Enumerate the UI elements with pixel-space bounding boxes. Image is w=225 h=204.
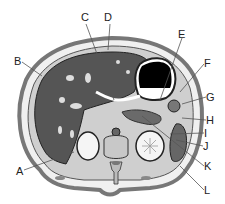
- vertebra: [104, 136, 128, 159]
- label-a: A: [16, 166, 23, 177]
- label-b: B: [14, 56, 21, 67]
- renal-pelvis: [142, 138, 158, 154]
- liver-vessel: [116, 60, 120, 64]
- liver-vessel: [126, 70, 130, 74]
- liver-vessel: [70, 103, 82, 109]
- liver-vessel: [59, 97, 65, 103]
- right-kidney: [77, 132, 99, 160]
- label-l: L: [204, 185, 210, 196]
- rib: [141, 176, 151, 180]
- stomach-air: [139, 62, 172, 88]
- label-d: D: [104, 12, 112, 23]
- liver-vessel: [85, 73, 91, 83]
- label-h: H: [206, 115, 214, 126]
- abdomen-cross-section: [0, 0, 225, 204]
- label-j: J: [203, 141, 209, 152]
- label-e: E: [178, 29, 185, 40]
- liver-vessel: [58, 126, 62, 134]
- label-c: C: [81, 12, 89, 23]
- spinal-canal: [112, 161, 120, 165]
- liver-vessel: [70, 130, 74, 138]
- aorta: [112, 128, 120, 136]
- colon: [168, 100, 180, 112]
- rib: [55, 176, 65, 180]
- liver-vessel: [66, 75, 74, 81]
- label-i: I: [204, 128, 207, 139]
- label-k: K: [204, 161, 211, 172]
- label-g: G: [206, 92, 215, 103]
- label-f: F: [204, 58, 211, 69]
